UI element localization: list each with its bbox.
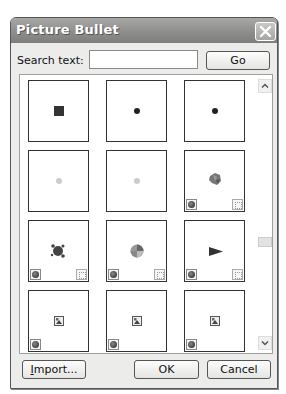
chevron-down-icon: [259, 337, 271, 349]
close-button[interactable]: [255, 22, 276, 41]
web-icon: [186, 339, 197, 350]
web-icon: [186, 269, 197, 280]
bullet-cell-splat[interactable]: [28, 220, 89, 282]
import-button[interactable]: Import...: [22, 360, 86, 379]
chevron-up-icon: [259, 80, 271, 92]
import-label-rest: mport...: [34, 363, 78, 376]
web-icon: [186, 199, 197, 210]
animation-icon: [232, 199, 243, 210]
ok-button[interactable]: OK: [134, 360, 199, 379]
bullet-cell-picture[interactable]: [106, 290, 167, 352]
bullet-grid: [19, 74, 273, 354]
bullet-cell-light-dot[interactable]: [106, 150, 167, 212]
bullet-cell-square[interactable]: [28, 80, 89, 142]
web-icon: [30, 339, 41, 350]
bullet-cell-picture[interactable]: [184, 290, 245, 352]
bullet-cell-arrow-flag[interactable]: [184, 220, 245, 282]
arrow-flag-bullet-icon: [209, 247, 223, 256]
scrollbar-thumb[interactable]: [258, 237, 272, 247]
cancel-button[interactable]: Cancel: [207, 360, 271, 379]
scroll-up-button[interactable]: [258, 79, 272, 93]
dot-bullet-icon: [212, 108, 218, 114]
animation-icon: [154, 269, 165, 280]
search-text-label: Search text:: [17, 54, 84, 67]
bullet-cell-light-dot[interactable]: [28, 150, 89, 212]
light-dot-bullet-icon: [134, 178, 140, 184]
close-icon: [259, 25, 272, 38]
bullet-cell-dot[interactable]: [184, 80, 245, 142]
title-bar[interactable]: Picture Bullet: [11, 18, 277, 43]
go-button[interactable]: Go: [206, 51, 270, 70]
dialog-title: Picture Bullet: [16, 22, 119, 37]
scroll-down-button[interactable]: [258, 336, 272, 350]
bullet-cell-leaf-cluster[interactable]: [184, 150, 245, 212]
light-dot-bullet-icon: [56, 178, 62, 184]
leaf-cluster-bullet-icon: [208, 172, 222, 186]
dot-bullet-icon: [134, 108, 140, 114]
picture-placeholder-icon: [54, 316, 64, 326]
square-bullet-icon: [54, 106, 64, 116]
bullet-cell-picture[interactable]: [28, 290, 89, 352]
splat-bullet-icon: [50, 243, 66, 259]
picture-bullet-dialog: Picture Bullet Search text: Go: [10, 17, 278, 389]
picture-placeholder-icon: [210, 316, 220, 326]
search-text-input[interactable]: [89, 50, 198, 69]
animation-icon: [232, 269, 243, 280]
picture-placeholder-icon: [132, 316, 142, 326]
web-icon: [30, 269, 41, 280]
web-icon: [108, 269, 119, 280]
web-icon: [108, 339, 119, 350]
bullet-cell-dot[interactable]: [106, 80, 167, 142]
pie-ball-bullet-icon: [130, 244, 144, 258]
animation-icon: [76, 269, 87, 280]
bullet-cell-pie-ball[interactable]: [106, 220, 167, 282]
